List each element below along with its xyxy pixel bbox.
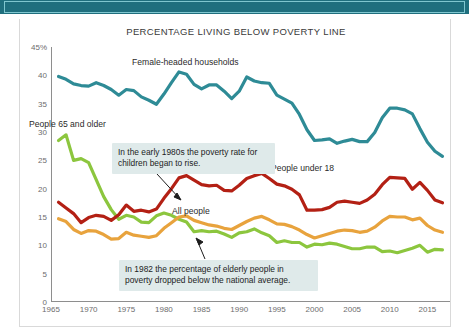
x-tick-label: 1990 [230,305,248,314]
y-tick-label: 35 [38,99,47,108]
top-banner-inner-border [4,1,465,13]
series-label-all-people: All people [172,206,210,216]
series-label-people-under-18: People under 18 [271,163,334,173]
chart-title: PERCENTAGE LIVING BELOW POVERTY LINE [20,26,451,37]
series-label-female-headed-households: Female-headed households [132,57,239,67]
x-tick-label: 1970 [80,305,98,314]
series-label-people-65-and-older: People 65 and older [29,119,106,129]
y-tick-label: 40 [38,71,47,80]
y-tick-label: 15 [38,213,47,222]
x-tick-label: 2000 [306,305,324,314]
chart-figure: PERCENTAGE LIVING BELOW POVERTY LINE 051… [0,0,469,331]
series-line [59,173,443,222]
top-banner [0,0,469,16]
y-tick-label: 5 [43,269,47,278]
x-tick-label: 1975 [117,305,135,314]
x-tick-label: 1965 [42,305,60,314]
x-tick-label: 2015 [419,305,437,314]
y-tick-label: 20 [38,184,47,193]
x-tick-label: 2010 [381,305,399,314]
x-tick-label: 1980 [155,305,173,314]
y-tick-label: 25 [38,156,47,165]
x-tick-label: 1995 [268,305,286,314]
x-tick-label: 2005 [343,305,361,314]
chart-card: PERCENTAGE LIVING BELOW POVERTY LINE 051… [19,19,451,327]
annotation-children-callout: In the early 1980s the poverty rate for … [112,143,275,174]
y-tick-label: 10 [38,241,47,250]
series-line [59,216,443,239]
x-tick-label: 1985 [193,305,211,314]
y-tick-label: 45% [31,43,47,52]
annotation-elderly-callout: In 1982 the percentage of elderly people… [119,260,318,291]
